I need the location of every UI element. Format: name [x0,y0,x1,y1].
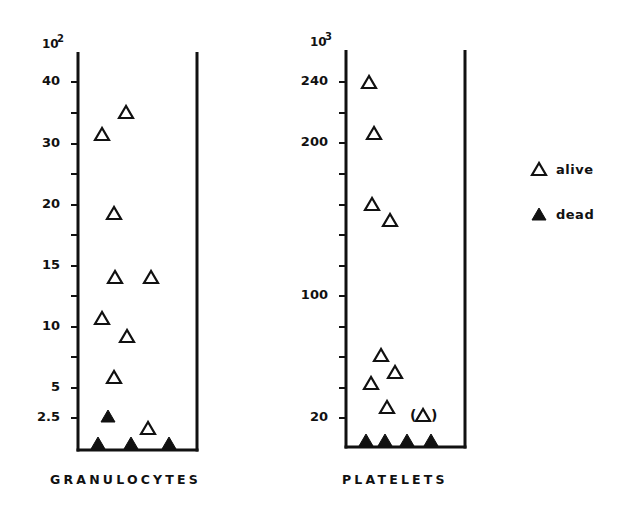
alive-marker [107,371,121,383]
alive-uncertain-marker [416,409,430,421]
panel-title: GRANULOCYTES [50,472,201,487]
dead-marker [424,434,438,446]
alive-marker [95,312,109,324]
legend-label-alive: alive [556,162,593,177]
alive-marker [374,349,388,361]
dead-marker [91,437,105,449]
dead-marker [400,434,414,446]
y-tick-label: 5 [51,379,60,394]
alive-marker [107,207,121,219]
dead-marker [378,434,392,446]
y-tick-label: 40 [42,73,60,88]
y-tick-label: 2.5 [37,409,60,424]
dead-marker [162,437,176,449]
alive-marker [364,377,378,389]
alive-marker [388,366,402,378]
legend-label-dead: dead [556,207,594,222]
y-tick-label: 20 [310,409,328,424]
alive-marker [120,330,134,342]
unit-exponent: 3 [325,31,332,42]
legend-dead-icon [532,208,546,220]
granulocytes-panel: 403020151052.5102GRANULOCYTES [37,33,201,487]
y-tick-label: 30 [42,135,60,150]
alive-marker [365,198,379,210]
alive-marker [362,76,376,88]
alive-marker [141,422,155,434]
unit-exponent: 2 [57,33,64,44]
y-tick-label: 20 [42,196,60,211]
legend: alivedead [532,162,594,222]
alive-marker [144,271,158,283]
alive-marker [119,106,133,118]
y-tick-label: 100 [301,287,328,302]
panel-title: PLATELETS [342,472,448,487]
y-tick-label: 240 [301,73,328,88]
dead-marker [359,434,373,446]
y-tick-label: 200 [301,134,328,149]
platelets-panel: 24020010020103()PLATELETS [301,31,467,487]
y-tick-label: 10 [42,318,60,333]
alive-marker [380,401,394,413]
alive-marker [95,128,109,140]
legend-alive-icon [532,163,546,175]
alive-marker [383,214,397,226]
dead-marker [101,410,115,422]
alive-marker [108,271,122,283]
y-tick-label: 15 [42,257,60,272]
paren-close: ) [431,407,437,423]
alive-marker [367,127,381,139]
figure: 403020151052.5102GRANULOCYTES 2402001002… [0,0,629,510]
dead-marker [124,437,138,449]
